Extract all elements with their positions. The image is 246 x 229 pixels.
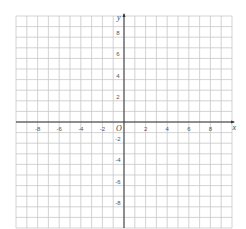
y-tick-label: -4 (115, 157, 121, 163)
y-axis-arrow-icon (123, 13, 126, 17)
x-tick-label: -2 (100, 126, 106, 132)
x-axis-label: x (232, 123, 237, 132)
y-axis-label: y (116, 13, 121, 22)
y-tick-labels: 8642-2-4-6-8 (115, 30, 121, 206)
x-tick-label: 6 (187, 126, 191, 132)
origin-label: O (116, 124, 122, 133)
y-tick-label: 4 (116, 73, 120, 79)
x-tick-label: 4 (166, 126, 170, 132)
x-tick-label: -8 (35, 126, 41, 132)
coordinate-grid: x y O -8-6-4-22468 8642-2-4-6-8 (0, 0, 246, 229)
y-tick-label: -2 (115, 136, 121, 142)
x-tick-label: -6 (57, 126, 63, 132)
y-tick-label: -6 (115, 179, 121, 185)
y-tick-label: 8 (116, 30, 120, 36)
x-tick-label: 8 (209, 126, 213, 132)
y-tick-label: 2 (116, 94, 120, 100)
x-tick-label: -4 (78, 126, 84, 132)
x-tick-label: 2 (144, 126, 148, 132)
y-tick-label: 6 (116, 51, 120, 57)
y-tick-label: -8 (115, 200, 121, 206)
